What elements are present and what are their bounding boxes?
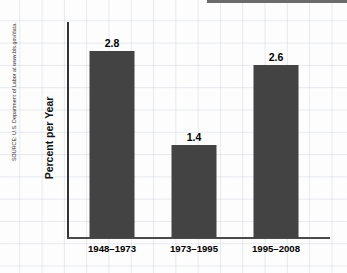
category-axis-labels: 1948–1973 1973–1995 1995–2008 <box>67 243 330 263</box>
category-label-0: 1948–1973 <box>67 243 157 254</box>
bar-group-1: 1.4 <box>155 22 233 238</box>
category-label-1: 1973–1995 <box>149 243 239 254</box>
bar-1[interactable] <box>172 145 217 238</box>
bar-value-label-2: 2.6 <box>269 51 284 63</box>
bar-2[interactable] <box>254 65 299 238</box>
bar-value-label-1: 1.4 <box>187 131 202 143</box>
y-axis-title: Percent per Year <box>43 83 55 193</box>
bar-group-0: 2.8 <box>73 22 151 238</box>
chart-screenshot: SOURCE: U.S. Department of Labor at www.… <box>0 0 347 273</box>
category-label-2: 1995–2008 <box>231 243 321 254</box>
plot-area: 2.8 1.4 2.6 <box>67 22 330 238</box>
bar-group-2: 2.6 <box>237 22 315 238</box>
bar-0[interactable] <box>90 51 135 238</box>
bar-value-label-0: 2.8 <box>105 37 120 49</box>
cropped-header-bar <box>207 0 347 3</box>
source-note: SOURCE: U.S. Department of Labor at www.… <box>11 1 17 161</box>
